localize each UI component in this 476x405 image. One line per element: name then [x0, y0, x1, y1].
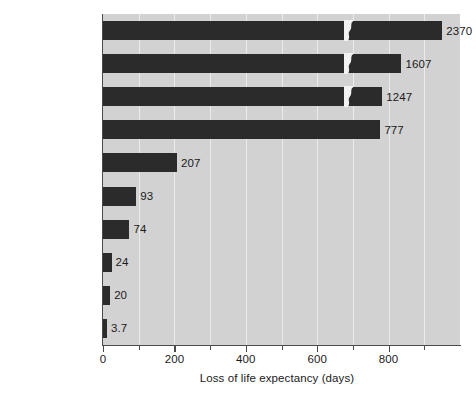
x-axis-minor-tick — [282, 346, 283, 350]
x-axis-tick — [174, 346, 175, 352]
bar-value-label: 2370 — [446, 25, 472, 37]
bar-value-label: 3.7 — [111, 322, 127, 334]
bar-value-label: 1607 — [405, 58, 431, 70]
bar-value-label: 777 — [384, 124, 404, 136]
bar-value-label: 74 — [133, 223, 146, 235]
bar — [103, 153, 177, 172]
bar — [103, 319, 107, 338]
bar — [103, 253, 112, 272]
axis-break-squiggle — [344, 86, 355, 107]
x-axis-minor-tick — [139, 346, 140, 350]
x-axis-tick-label: 800 — [379, 353, 399, 365]
x-axis-tick-label: 200 — [165, 353, 185, 365]
bar-value-label: 24 — [116, 256, 129, 268]
bar — [103, 54, 401, 73]
axis-break-squiggle — [344, 53, 355, 74]
x-axis-tick — [317, 346, 318, 352]
x-axis-tick-label: 0 — [100, 353, 107, 365]
x-axis-tick-label: 400 — [236, 353, 256, 365]
bar — [103, 21, 442, 40]
bar-value-label: 20 — [114, 289, 127, 301]
x-axis-tick — [246, 346, 247, 352]
bar — [103, 87, 382, 106]
x-axis-title: Loss of life expectancy (days) — [0, 372, 476, 384]
x-axis-tick — [103, 346, 104, 352]
x-axis-minor-tick — [424, 346, 425, 350]
bar — [103, 120, 380, 139]
x-axis-tick-label: 600 — [307, 353, 327, 365]
x-axis-minor-tick — [353, 346, 354, 350]
x-axis-minor-tick — [210, 346, 211, 350]
bar-chart: Smoking 20cigarettes a day2370Heartdisea… — [0, 0, 476, 405]
axis-break-squiggle — [344, 20, 355, 41]
bar — [103, 286, 110, 305]
x-axis-title-text: Loss of life expectancy (days) — [122, 372, 355, 384]
bar — [103, 220, 129, 239]
bar-value-label: 1247 — [386, 91, 412, 103]
x-axis-tick — [389, 346, 390, 352]
bar — [103, 187, 136, 206]
bar-value-label: 207 — [181, 157, 201, 169]
bar-value-label: 93 — [140, 190, 153, 202]
